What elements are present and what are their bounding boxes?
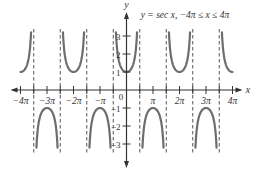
secant-branch xyxy=(63,32,84,72)
x-axis-label: x xyxy=(245,84,251,95)
secant-branch xyxy=(36,108,57,148)
y-axis-arrow-up xyxy=(124,12,129,19)
x-axis-arrow-right xyxy=(235,88,242,93)
secant-branch xyxy=(169,32,190,72)
secant-branch xyxy=(21,32,32,72)
x-tick-label: 4π xyxy=(228,96,238,106)
y-tick-label: 1 xyxy=(116,68,121,78)
y-tick-label: −2 xyxy=(111,122,121,132)
x-tick-label: π xyxy=(151,96,156,106)
secant-branch xyxy=(89,108,110,148)
axes xyxy=(11,12,243,168)
y-tick-label: −3 xyxy=(111,140,121,150)
y-tick-label: −1 xyxy=(111,104,121,114)
x-tick-label: 3π xyxy=(200,96,211,106)
secant-branch xyxy=(142,108,163,148)
y-axis-label: y xyxy=(123,0,129,10)
x-tick-label: −π xyxy=(94,96,105,106)
x-tick-label: −4π xyxy=(13,96,29,106)
y-tick-label: 2 xyxy=(116,50,121,60)
secant-branch xyxy=(195,108,216,148)
y-axis-arrow-down xyxy=(124,161,129,168)
x-tick-label: −3π xyxy=(39,96,55,106)
secant-branch xyxy=(222,32,233,72)
origin-label: 0 xyxy=(119,92,124,102)
chart-title: y = sec x, −4π ≤ x ≤ 4π xyxy=(140,10,230,20)
x-axis-arrow-left xyxy=(11,88,18,93)
secant-chart: −4π−3π−2π−ππ2π3π4π321−1−2−3 y = sec x, −… xyxy=(0,0,254,175)
y-tick-label: 3 xyxy=(116,32,121,42)
x-tick-label: 2π xyxy=(175,96,185,106)
x-tick-label: −2π xyxy=(66,96,82,106)
